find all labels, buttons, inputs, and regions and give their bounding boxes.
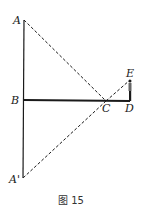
diagram-canvas: A B A' C D E 图 15 (0, 0, 145, 213)
label-d: D (124, 102, 134, 115)
figure-caption: 图 15 (58, 195, 84, 206)
segment-a-c (24, 20, 106, 101)
segment-a-a-prime (23, 20, 24, 178)
label-c: C (102, 102, 111, 115)
label-e: E (125, 67, 134, 80)
segment-b-d (24, 100, 130, 101)
label-b: B (10, 94, 19, 107)
label-a-prime: A' (8, 173, 20, 186)
person-figure-icon (129, 80, 132, 102)
segment-c-a-prime (23, 101, 106, 178)
segment-c-e (106, 80, 130, 101)
geometry-figure: A B A' C D E 图 15 (0, 0, 145, 213)
label-a: A (12, 14, 21, 27)
